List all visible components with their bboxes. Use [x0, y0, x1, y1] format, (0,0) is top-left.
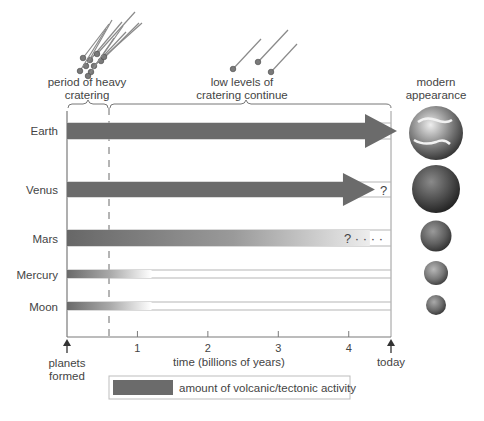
- heavy-meteor: [80, 55, 86, 61]
- today-label: today: [377, 356, 405, 368]
- modern-appearance-label-line1: modern: [417, 76, 456, 88]
- mars-activity-bar: [67, 230, 370, 246]
- heavy-meteor-shower-icon: [77, 12, 142, 79]
- low-cratering-brace: [110, 100, 391, 108]
- tick-label-2: 2: [205, 342, 211, 354]
- venus-planet-image: [412, 165, 460, 213]
- light-meteor: [255, 59, 261, 65]
- light-meteor-trail: [258, 30, 288, 62]
- tick-label-3: 3: [275, 342, 281, 354]
- moon-planet-image: [426, 295, 446, 315]
- heavy-meteor: [94, 51, 100, 57]
- body-label-mercury: Mercury: [16, 269, 58, 281]
- today-arrow-icon: [387, 339, 395, 353]
- light-meteor: [230, 66, 236, 72]
- time-axis-ticks: 1234: [134, 331, 351, 354]
- heavy-cratering-brace: [68, 100, 108, 108]
- planet-images: [409, 106, 463, 315]
- venus-activity-arrow: [67, 173, 375, 206]
- earth-planet-image: [409, 106, 463, 160]
- low-cratering-label-line1: low levels of: [211, 76, 274, 88]
- mercury-planet-image: [424, 261, 448, 285]
- light-meteor: [268, 69, 274, 75]
- venus-uncertainty-marker: ?: [380, 183, 387, 198]
- light-meteors-icon: [230, 30, 297, 75]
- body-label-mars: Mars: [32, 233, 58, 245]
- heavy-meteor: [77, 68, 83, 74]
- legend-label: amount of volcanic/tectonic activity: [179, 382, 356, 394]
- planets-formed-label-line2: formed: [49, 370, 85, 382]
- mars-planet-image: [421, 221, 452, 252]
- mars-uncertainty-marker: ? · · · ·: [344, 231, 383, 246]
- heavy-cratering-label-line2: cratering: [65, 89, 110, 101]
- planets-formed-label-line1: planets: [48, 357, 85, 369]
- heavy-cratering-label-line1: period of heavy: [48, 76, 127, 88]
- tick-label-4: 4: [346, 342, 352, 354]
- time-axis-title: time (billions of years): [173, 356, 285, 368]
- low-cratering-label-line2: cratering continue: [196, 89, 287, 101]
- body-label-moon: Moon: [29, 301, 58, 313]
- modern-appearance-label-line2: appearance: [406, 89, 467, 101]
- body-label-earth: Earth: [31, 125, 59, 137]
- earth-activity-arrow: [67, 114, 397, 148]
- tick-label-1: 1: [134, 342, 140, 354]
- activity-bars: [67, 114, 397, 310]
- legend-swatch: [113, 380, 173, 395]
- mercury-activity-bar: [67, 270, 152, 278]
- body-label-venus: Venus: [26, 184, 58, 196]
- moon-activity-bar: [67, 302, 152, 310]
- planetary-geology-timeline: period of heavy cratering low levels of …: [0, 0, 484, 421]
- light-meteor-trail: [271, 44, 297, 72]
- planets-formed-arrow-icon: [63, 339, 71, 353]
